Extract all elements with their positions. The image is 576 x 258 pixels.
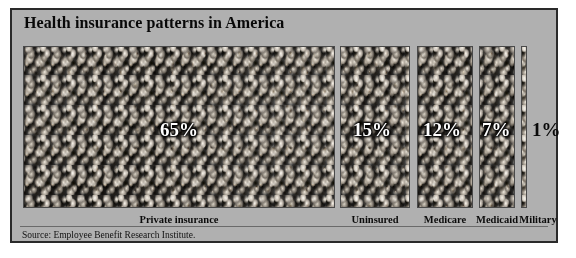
plot-area: 65% Private insurance 15% Uninsured 12% … bbox=[12, 40, 556, 241]
value-label-military: 1% bbox=[532, 120, 561, 139]
category-label-medicaid: Medicaid bbox=[476, 214, 518, 225]
title-bar: Health insurance patterns in America bbox=[12, 10, 556, 40]
chart-figure: Health insurance patterns in America 65%… bbox=[10, 8, 558, 243]
category-label-medicare: Medicare bbox=[415, 214, 475, 225]
category-label-uninsured: Uninsured bbox=[340, 214, 410, 225]
category-label-military: Military bbox=[518, 214, 558, 225]
value-label-medicaid: 7% bbox=[482, 120, 511, 139]
category-label-private-insurance: Private insurance bbox=[23, 214, 335, 225]
source-note: Source: Employee Benefit Research Instit… bbox=[22, 230, 195, 240]
value-label-medicare: 12% bbox=[423, 120, 461, 139]
page-title: Health insurance patterns in America bbox=[24, 14, 284, 32]
value-label-uninsured: 15% bbox=[353, 120, 391, 139]
value-label-private-insurance: 65% bbox=[160, 120, 198, 139]
bar-military bbox=[521, 46, 527, 208]
source-divider bbox=[20, 226, 548, 227]
crowd-photo-speckle bbox=[522, 47, 526, 207]
